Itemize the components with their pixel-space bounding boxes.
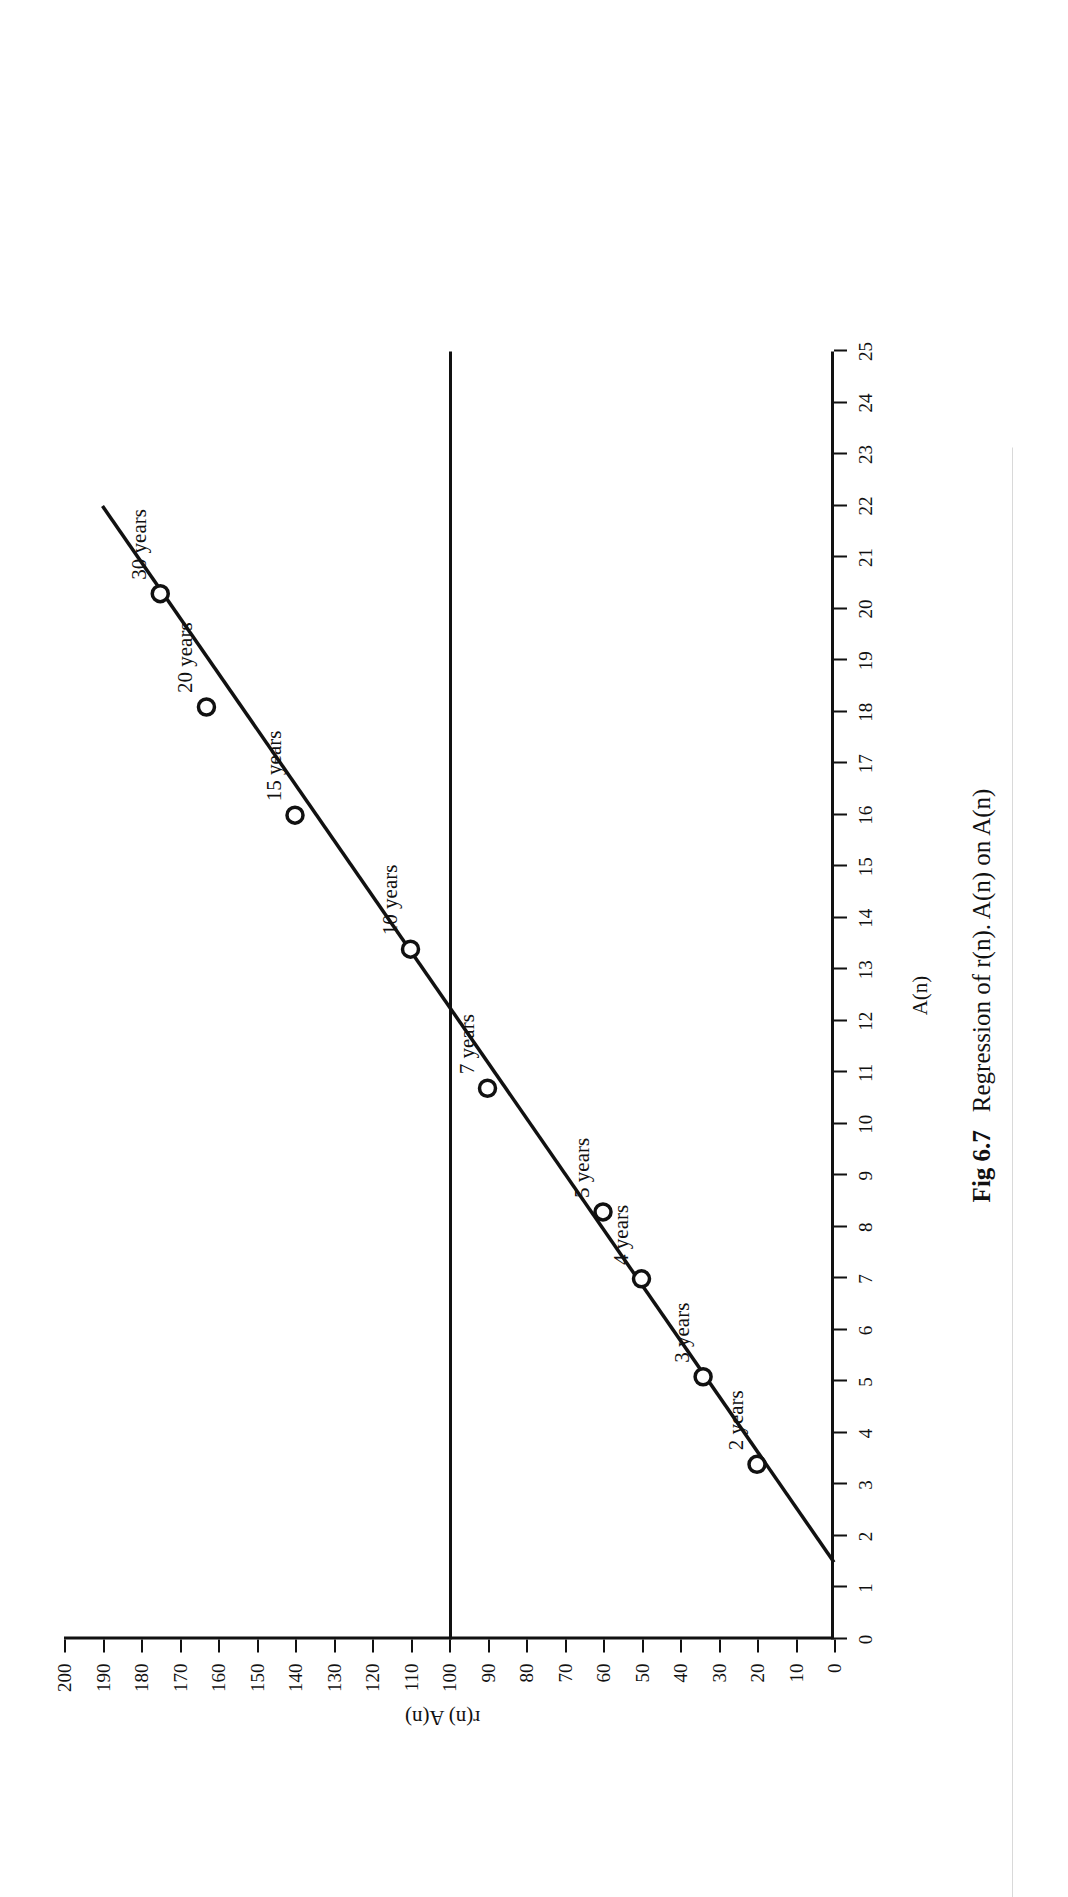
x-tick-label: 4 bbox=[856, 1428, 875, 1438]
x-tick-label: 21 bbox=[856, 548, 875, 567]
y-tick bbox=[411, 1639, 413, 1652]
y-tick-label: 60 bbox=[594, 1663, 613, 1682]
x-tick bbox=[834, 967, 847, 969]
y-tick-label: 90 bbox=[478, 1663, 497, 1682]
x-tick-label: 13 bbox=[856, 960, 875, 979]
y-tick bbox=[642, 1639, 644, 1652]
x-tick-label: 8 bbox=[856, 1222, 875, 1232]
y-tick-label: 80 bbox=[517, 1663, 536, 1682]
y-tick-label: 170 bbox=[170, 1663, 189, 1692]
y-tick bbox=[334, 1639, 336, 1652]
y-tick bbox=[603, 1639, 605, 1652]
x-tick bbox=[834, 1585, 847, 1587]
y-tick bbox=[64, 1639, 66, 1652]
x-tick bbox=[834, 1637, 847, 1639]
y-tick bbox=[449, 1639, 451, 1652]
y-tick bbox=[796, 1639, 798, 1652]
y-tick bbox=[103, 1639, 105, 1652]
data-point-label: 15 years bbox=[264, 730, 285, 801]
x-tick bbox=[834, 555, 847, 557]
data-point-label: 2 years bbox=[726, 1390, 747, 1450]
y-tick-label: 150 bbox=[247, 1663, 266, 1692]
data-point-marker bbox=[152, 585, 168, 601]
data-point-label: 4 years bbox=[610, 1204, 631, 1264]
y-tick-label: 140 bbox=[286, 1663, 305, 1692]
x-tick bbox=[834, 349, 847, 351]
x-tick-label: 24 bbox=[856, 393, 875, 412]
regression-line-svg bbox=[64, 351, 834, 1639]
figure-caption: Fig 6.7Regression of r(n). A(n) on A(n) bbox=[968, 351, 996, 1639]
y-tick-label: 50 bbox=[632, 1663, 651, 1682]
x-tick bbox=[834, 710, 847, 712]
y-tick-label: 70 bbox=[555, 1663, 574, 1682]
x-tick-label: 20 bbox=[856, 599, 875, 618]
data-point-label: 30 years bbox=[129, 509, 150, 580]
x-tick bbox=[834, 761, 847, 763]
x-tick-label: 23 bbox=[856, 445, 875, 464]
plot-area: 0102030405060708090100110120130140150160… bbox=[64, 351, 834, 1639]
y-tick-label: 110 bbox=[401, 1663, 420, 1691]
x-tick bbox=[834, 452, 847, 454]
y-tick-label: 190 bbox=[93, 1663, 112, 1692]
y-tick bbox=[488, 1639, 490, 1652]
x-tick bbox=[834, 401, 847, 403]
x-axis-title: A(n) bbox=[908, 351, 933, 1639]
x-tick bbox=[834, 1328, 847, 1330]
x-tick bbox=[834, 1431, 847, 1433]
data-point-label: 5 years bbox=[572, 1137, 593, 1197]
y-tick bbox=[180, 1639, 182, 1652]
x-tick bbox=[834, 1482, 847, 1484]
y-axis-title: r(n) A(n) bbox=[263, 1705, 623, 1730]
x-tick-label: 16 bbox=[856, 805, 875, 824]
x-tick-label: 19 bbox=[856, 651, 875, 670]
y-tick-label: 30 bbox=[709, 1663, 728, 1682]
x-tick-label: 10 bbox=[856, 1114, 875, 1133]
figure-number: Fig 6.7 bbox=[968, 1130, 995, 1202]
y-tick-label: 20 bbox=[748, 1663, 767, 1682]
data-point-label: 10 years bbox=[379, 864, 400, 935]
y-tick-label: 100 bbox=[440, 1663, 459, 1692]
y-tick bbox=[680, 1639, 682, 1652]
data-point-marker bbox=[695, 1368, 711, 1384]
y-tick bbox=[295, 1639, 297, 1652]
x-tick bbox=[834, 1173, 847, 1175]
caption-text: Regression of r(n). A(n) on A(n) bbox=[968, 788, 995, 1112]
data-point-marker bbox=[198, 698, 214, 714]
x-tick bbox=[834, 504, 847, 506]
x-tick-label: 14 bbox=[856, 908, 875, 927]
x-tick-label: 5 bbox=[856, 1377, 875, 1387]
x-tick-label: 9 bbox=[856, 1171, 875, 1181]
y-tick-label: 180 bbox=[132, 1663, 151, 1692]
x-tick bbox=[834, 1122, 847, 1124]
y-tick-label: 40 bbox=[671, 1663, 690, 1682]
y-tick bbox=[719, 1639, 721, 1652]
y-tick bbox=[757, 1639, 759, 1652]
y-tick-label: 0 bbox=[825, 1663, 844, 1673]
y-tick bbox=[141, 1639, 143, 1652]
y-tick bbox=[526, 1639, 528, 1652]
data-point-marker bbox=[634, 1270, 650, 1286]
x-tick bbox=[834, 607, 847, 609]
data-point-marker bbox=[480, 1080, 496, 1096]
y-tick-label: 130 bbox=[324, 1663, 343, 1692]
data-point-label: 3 years bbox=[672, 1302, 693, 1362]
x-tick-label: 12 bbox=[856, 1011, 875, 1030]
y-tick-label: 160 bbox=[209, 1663, 228, 1692]
x-tick-label: 2 bbox=[856, 1531, 875, 1541]
x-tick bbox=[834, 916, 847, 918]
x-tick bbox=[834, 1379, 847, 1381]
x-tick bbox=[834, 1070, 847, 1072]
data-point-marker bbox=[749, 1456, 765, 1472]
y-tick-label: 200 bbox=[55, 1663, 74, 1692]
x-tick bbox=[834, 1019, 847, 1021]
x-tick-label: 6 bbox=[856, 1325, 875, 1335]
y-tick bbox=[257, 1639, 259, 1652]
y-tick bbox=[372, 1639, 374, 1652]
y-tick-label: 10 bbox=[786, 1663, 805, 1682]
data-point-marker bbox=[403, 941, 419, 957]
y-tick bbox=[218, 1639, 220, 1652]
x-tick bbox=[834, 1225, 847, 1227]
data-point-label: 7 years bbox=[456, 1014, 477, 1074]
x-tick bbox=[834, 813, 847, 815]
x-tick-label: 11 bbox=[856, 1063, 875, 1081]
